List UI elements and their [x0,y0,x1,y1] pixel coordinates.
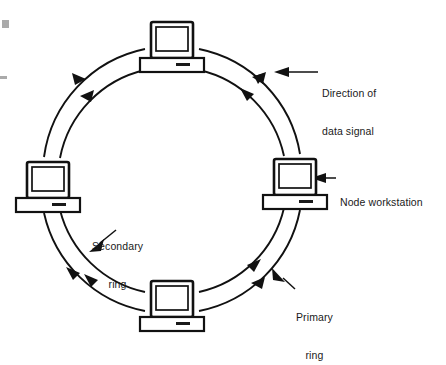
direction-arrowhead-icon [274,67,289,77]
node-bottom-screen [156,286,188,310]
node-bottom-base [140,317,204,331]
direction-callout-leader [274,67,318,77]
primary-label-line2: ring [296,349,333,362]
secondary-ring-arrowhead-top-left [72,73,86,85]
direction-label-line2: data signal [322,125,376,138]
primary-arrowhead-icon [272,268,285,282]
node-workstation-label: Node workstation [340,171,423,234]
node-right-base [263,195,327,209]
secondary-ring-arc-bottom-right [199,210,300,311]
node-right[interactable] [263,159,327,209]
node-left[interactable] [16,162,80,212]
primary-label-line1: Primary [296,311,333,324]
node-bottom[interactable] [140,281,204,331]
node-bottom-drive-slot [176,322,190,325]
primary-leader-line [283,278,295,289]
scan-artifact-dash [0,76,7,79]
node-label-line1: Node workstation [340,196,423,209]
scan-artifact-square [2,20,9,28]
node-top[interactable] [140,22,204,72]
secondary-ring-label: Secondary ring [92,215,143,316]
primary-ring-arc-bottom-right [199,208,284,292]
node-left-drive-slot [52,203,66,206]
secondary-label-line1: Secondary [92,240,143,253]
node-top-drive-slot [176,63,190,66]
primary-callout-leader [272,268,295,289]
secondary-ring-arc-top-left [44,49,145,157]
node-top-base [140,58,204,72]
node-right-screen [279,164,311,188]
node-right-drive-slot [299,200,313,203]
node-top-screen [156,27,188,51]
direction-label-line1: Direction of [322,87,376,100]
secondary-ring-arc-top-right [199,49,300,154]
node-left-base [16,198,80,212]
primary-ring-arc-top-right [199,70,284,156]
primary-ring-label: Primary ring [296,286,333,365]
primary-ring-arc-top-left [60,70,145,158]
node-left-screen [32,167,64,191]
secondary-label-line2: ring [92,278,143,291]
direction-of-data-signal-label: Direction of data signal [322,62,376,163]
secondary-ring [44,49,300,311]
